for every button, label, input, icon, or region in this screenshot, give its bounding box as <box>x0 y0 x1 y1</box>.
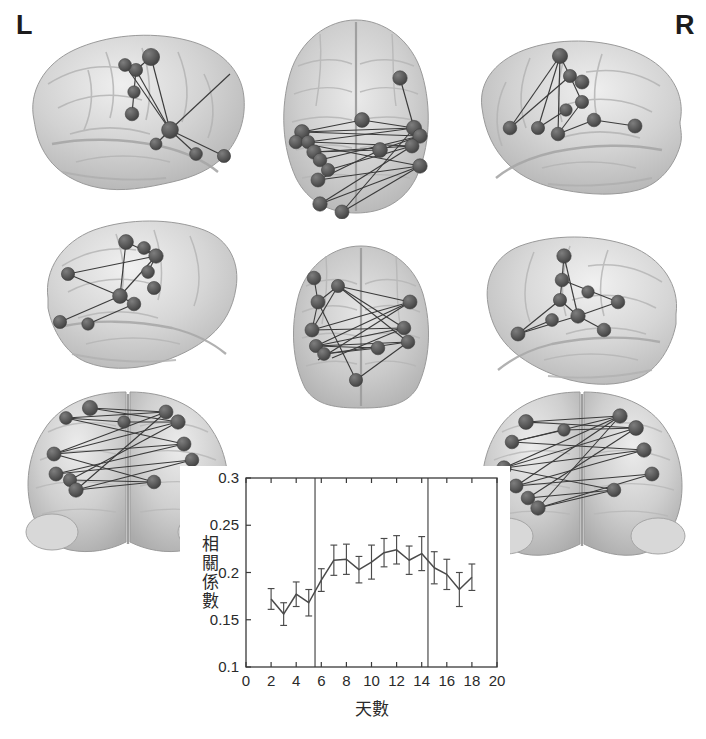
brain-view-right-medial-sagittal <box>478 228 688 398</box>
correlation-coefficient-chart: 0.10.150.20.250.302468101214161820天數相關係數 <box>180 466 510 739</box>
brain-view-left-medial-sagittal <box>38 212 243 384</box>
y-axis-tick-label: 0.15 <box>210 611 239 628</box>
x-axis-tick-label: 8 <box>342 672 350 689</box>
y-axis-tick-label: 0.1 <box>218 658 239 675</box>
y-axis-label-char: 數 <box>202 591 219 611</box>
x-axis-tick-label: 0 <box>242 672 250 689</box>
x-axis-tick-label: 14 <box>413 672 430 689</box>
brain-view-axial-inferior <box>282 242 440 410</box>
brain-view-axial-superior <box>272 14 442 219</box>
x-axis-tick-label: 18 <box>464 672 481 689</box>
x-axis-tick-label: 2 <box>267 672 275 689</box>
x-axis-tick-label: 16 <box>438 672 455 689</box>
brain-view-right-lateral-sagittal-superior <box>480 28 695 206</box>
y-axis-tick-label: 0.3 <box>218 469 239 486</box>
x-axis-tick-label: 10 <box>363 672 380 689</box>
brain-view-left-lateral-sagittal-superior <box>18 22 253 207</box>
chart-background <box>180 466 510 739</box>
x-axis-label: 天數 <box>355 699 389 719</box>
y-axis-label-char: 相 <box>202 534 219 554</box>
y-axis-tick-label: 0.25 <box>210 516 239 533</box>
y-axis-tick-label: 0.2 <box>218 564 239 581</box>
brain-surface <box>481 41 681 194</box>
y-axis-label-char: 係 <box>202 572 219 592</box>
x-axis-tick-label: 6 <box>317 672 325 689</box>
y-axis-label-char: 關 <box>202 553 219 573</box>
x-axis-tick-label: 20 <box>489 672 506 689</box>
x-axis-tick-label: 4 <box>292 672 300 689</box>
x-axis-tick-label: 12 <box>388 672 405 689</box>
brain-connectivity-figure: L R <box>0 0 706 739</box>
